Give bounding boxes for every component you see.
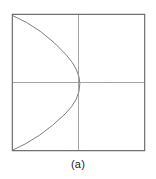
figure-container: (a) (0, 0, 156, 179)
figure-caption: (a) (0, 157, 156, 171)
flow-net-diagram (11, 13, 146, 152)
flow-net-plot-frame (11, 13, 146, 152)
